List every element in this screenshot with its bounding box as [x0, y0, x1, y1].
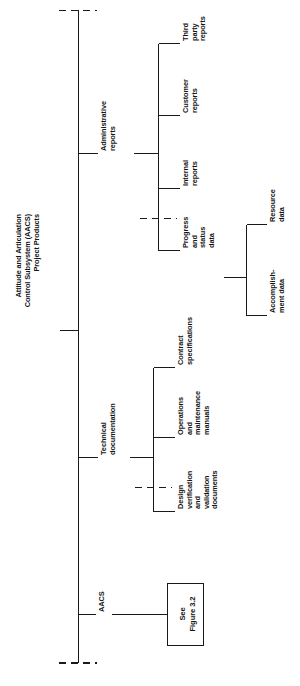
branch-label-administrative-reports: Administrativereports	[100, 69, 117, 151]
see-figure-line-1: See	[178, 607, 187, 620]
administrative-line-2: reports	[108, 126, 117, 151]
customer-line-2: reports	[190, 88, 199, 113]
accomplishment-line-2: ment data	[277, 279, 286, 313]
third-party-line-3: reports	[198, 16, 207, 41]
leaf-label-accomplishment-data: Accomplish-ment data	[269, 251, 286, 313]
title-line-1: Attitude and Articulation	[14, 214, 23, 297]
contract-spec-line-2: specifications	[185, 317, 194, 365]
internal-line-2: reports	[190, 161, 199, 186]
leaf-label-third-party-reports: Thirdpartyreports	[182, 0, 208, 41]
leaf-label-internal-reports: Internalreports	[182, 128, 199, 186]
title-line-3: Project Products	[32, 214, 41, 272]
leaf-label-customer-reports: Customerreports	[182, 51, 199, 113]
see-figure-line-2: Figure 3.2	[188, 597, 197, 632]
leaf-label-contract-specifications: Contractspecifications	[177, 293, 194, 365]
branch-label-aacs: AACS	[98, 552, 107, 612]
aacs-label-text: AACS	[97, 591, 106, 612]
progress-line-4: data	[207, 233, 216, 248]
see-figure-box-label: SeeFigure 3.2	[178, 585, 197, 643]
leaf-label-resource-data: Resourcedata	[269, 168, 286, 222]
branch-label-progress-status-data: Progressandstatusdata	[182, 188, 216, 248]
design-line-5: documents	[210, 470, 219, 509]
title-line-2: Control Subsystem (AACS)	[23, 214, 32, 307]
technical-line-2: documentation	[108, 403, 117, 455]
branch-label-technical-documentation: Technicaldocumentation	[100, 369, 117, 455]
leaf-label-operations-maintenance-manuals: Operationsandmaintenancemanuals	[177, 359, 211, 435]
tree-diagram-canvas	[0, 0, 300, 686]
resource-line-2: data	[277, 207, 286, 222]
page-title: Attitude and ArticulationControl Subsyst…	[14, 214, 42, 330]
leaf-label-design-verification-validation: Designverificationandvalidationdocuments	[177, 431, 220, 509]
